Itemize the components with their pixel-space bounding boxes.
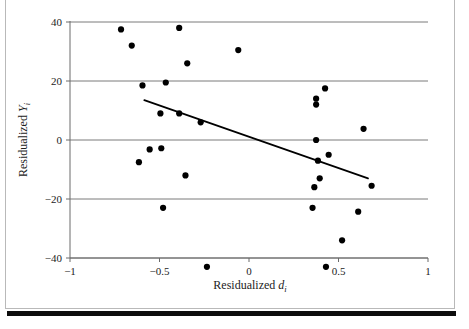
y-axis-title-prefix: Residualized <box>16 112 30 177</box>
bottom-rule <box>7 311 456 316</box>
data-point-23 <box>317 175 323 181</box>
data-point-16 <box>313 96 319 102</box>
y-tick-label-40: 40 <box>36 16 62 28</box>
y-axis-title: Residualized Yi <box>16 103 32 177</box>
ticks-group <box>66 22 428 262</box>
y-tick-label--40: −40 <box>36 252 62 264</box>
data-point-19 <box>360 126 366 132</box>
data-point-22 <box>326 152 332 158</box>
x-tick-label-1: 1 <box>425 265 431 277</box>
data-point-5 <box>139 82 145 88</box>
data-point-9 <box>198 119 204 125</box>
data-point-25 <box>369 183 375 189</box>
data-point-27 <box>355 209 361 215</box>
y-axis-title-subscript: i <box>22 103 32 105</box>
x-tick-label-0: 0 <box>246 265 252 277</box>
x-axis-title: Residualized di <box>213 278 286 294</box>
data-point-1 <box>129 43 135 49</box>
data-point-28 <box>339 237 345 243</box>
data-point-24 <box>311 184 317 190</box>
data-point-17 <box>313 102 319 108</box>
data-point-15 <box>204 264 210 270</box>
data-point-7 <box>157 110 163 116</box>
data-point-4 <box>235 47 241 53</box>
data-point-29 <box>323 264 329 270</box>
figure-root: −40−2002040 −1−0.500.51 Residualized Yi … <box>0 0 469 329</box>
data-point-13 <box>182 172 188 178</box>
x-tick-label--0.5: −0.5 <box>150 265 170 277</box>
data-point-8 <box>176 110 182 116</box>
y-tick-label--20: −20 <box>36 193 62 205</box>
data-point-12 <box>136 159 142 165</box>
y-axis-title-variable: Y <box>16 105 30 112</box>
data-point-14 <box>160 205 166 211</box>
gridlines-group <box>70 22 428 258</box>
data-point-11 <box>158 145 164 151</box>
y-tick-label-20: 20 <box>36 75 62 87</box>
data-point-6 <box>163 79 169 85</box>
data-point-20 <box>313 137 319 143</box>
data-point-26 <box>309 205 315 211</box>
x-axis-title-prefix: Residualized <box>213 278 278 292</box>
y-tick-label-0: 0 <box>36 134 62 146</box>
data-point-3 <box>184 60 190 66</box>
data-point-21 <box>315 158 321 164</box>
data-point-18 <box>322 85 328 91</box>
x-axis-title-subscript: i <box>284 284 286 294</box>
data-points-group <box>118 25 375 270</box>
scatter-chart: −40−2002040 −1−0.500.51 Residualized Yi … <box>0 0 469 309</box>
data-point-10 <box>147 146 153 152</box>
chart-svg <box>0 0 469 309</box>
x-tick-label-0.5: 0.5 <box>332 265 346 277</box>
x-tick-label--1: −1 <box>64 265 76 277</box>
data-point-0 <box>118 26 124 32</box>
data-point-2 <box>176 25 182 31</box>
